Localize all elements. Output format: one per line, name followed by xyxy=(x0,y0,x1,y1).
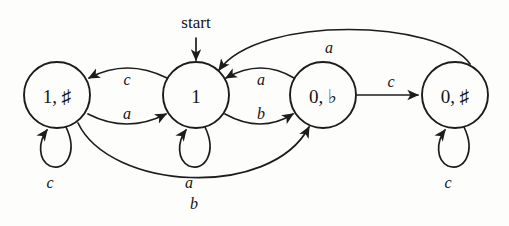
edge-s4-to-s2 xyxy=(219,30,470,71)
edge-label-s3-s4: c xyxy=(387,73,394,90)
diagram-canvas: 1, ♯ 1 0, ♭ 0, ♯ start c a a b c a b c a… xyxy=(0,0,509,226)
state-node-s1[interactable]: 1, ♯ xyxy=(24,62,90,128)
edge-label-s4-s2: a xyxy=(325,39,333,56)
edge-label-s1-s3: b xyxy=(190,195,198,212)
edge-label-s2-s3: b xyxy=(257,105,265,122)
edge-label-s2-s1: c xyxy=(123,71,130,88)
state-node-s3[interactable]: 0, ♭ xyxy=(290,62,356,128)
edge-label-s1-s2: a xyxy=(123,105,131,122)
state-label-s3: 0, ♭ xyxy=(309,86,337,107)
start-label: start xyxy=(181,13,211,32)
self-loop-label-s1: c xyxy=(46,174,53,191)
state-label-s2: 1 xyxy=(191,86,201,107)
state-label-s4: 0, ♯ xyxy=(441,86,470,107)
state-node-s4[interactable]: 0, ♯ xyxy=(422,62,488,128)
state-label-s1: 1, ♯ xyxy=(43,86,72,107)
self-loop-label-s4: c xyxy=(444,174,451,191)
self-loop-label-s2: a xyxy=(185,174,193,191)
edge-s1-to-s3 xyxy=(78,123,309,178)
self-loop-s2 xyxy=(180,127,210,167)
state-node-s2[interactable]: 1 xyxy=(163,62,229,128)
self-loop-s4 xyxy=(439,127,469,167)
self-loop-s1 xyxy=(41,127,71,167)
automaton-diagram: 1, ♯ 1 0, ♭ 0, ♯ start c a a b c a b c a… xyxy=(0,0,509,226)
edge-label-s3-s2: a xyxy=(257,71,265,88)
